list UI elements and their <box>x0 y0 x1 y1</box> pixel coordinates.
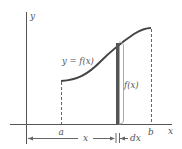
area-strip <box>116 43 120 124</box>
x-distance-label: x <box>83 133 88 143</box>
curve-f <box>61 28 151 81</box>
arrow-head-left-icon <box>28 137 33 141</box>
arrow-head-right-icon <box>110 137 115 141</box>
y-axis-label: y <box>29 11 36 21</box>
a-label: a <box>59 127 64 137</box>
dx-label: dx <box>130 133 141 143</box>
area-diagram: y x y = f(x) f(x) a b x dx <box>0 0 182 149</box>
curve-label: y = f(x) <box>61 56 94 66</box>
b-label: b <box>148 127 154 137</box>
x-axis-label: x <box>168 126 173 136</box>
strip-height-label: f(x) <box>123 80 139 90</box>
height-bracket <box>119 42 124 124</box>
